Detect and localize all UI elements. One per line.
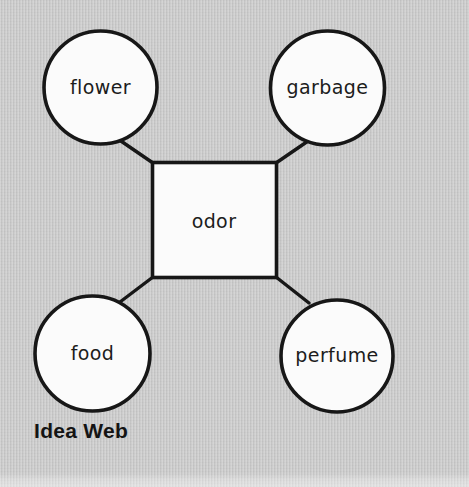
figure-caption: Idea Web <box>34 419 128 443</box>
connector-odor-perfume <box>276 277 309 303</box>
node-garbage[interactable]: garbage <box>271 31 385 145</box>
node-food[interactable]: food <box>35 296 150 411</box>
connector-odor-food <box>120 277 153 302</box>
node-flower[interactable]: flower <box>44 31 157 144</box>
idea-web-figure: odor flower garbage food perfume Idea We… <box>0 0 469 487</box>
node-food-label: food <box>71 342 115 364</box>
idea-web-diagram: odor flower garbage food perfume <box>0 0 469 487</box>
center-node-odor[interactable]: odor <box>153 163 277 278</box>
center-node-label: odor <box>192 210 237 232</box>
node-perfume-label: perfume <box>295 344 378 366</box>
node-garbage-label: garbage <box>287 76 369 98</box>
node-flower-label: flower <box>70 76 131 98</box>
connector-odor-flower <box>118 139 153 163</box>
node-perfume[interactable]: perfume <box>281 300 393 412</box>
